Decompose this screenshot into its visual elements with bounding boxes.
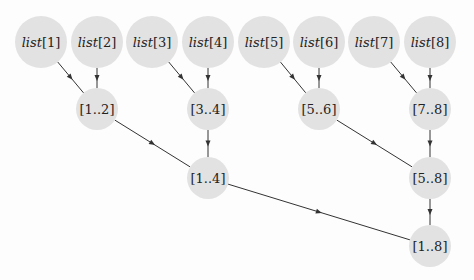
arrow-head-icon <box>206 75 211 81</box>
node-label: [1..4] <box>191 171 226 186</box>
node-label-italic: list <box>22 35 42 50</box>
arrow-head-icon <box>428 209 433 215</box>
node-label-index: [5..8] <box>413 171 448 186</box>
node-label-index: [7] <box>375 35 393 50</box>
node-label-italic: list <box>189 35 209 50</box>
node-l5: list[5] <box>238 16 290 68</box>
node-l8: list[8] <box>404 16 456 68</box>
node-m12: [1..2] <box>76 88 118 130</box>
node-label: list[7] <box>355 35 394 50</box>
arrow-head-icon <box>149 140 155 145</box>
node-m78: [7..8] <box>409 88 451 130</box>
arrow-head-icon <box>95 75 100 81</box>
node-label: [1..8] <box>413 239 448 254</box>
arrow-head-icon <box>317 75 322 81</box>
node-l2: list[2] <box>71 16 123 68</box>
node-label-italic: list <box>78 35 98 50</box>
node-label-index: [1..8] <box>413 239 448 254</box>
node-l3: list[3] <box>126 16 178 68</box>
node-label-index: [8] <box>431 35 449 50</box>
arrow-head-icon <box>428 141 433 147</box>
node-label-index: [5..6] <box>302 102 337 117</box>
node-label-index: [4] <box>209 35 227 50</box>
node-label-index: [2] <box>98 35 116 50</box>
node-label-index: [1] <box>42 35 60 50</box>
node-l1: list[1] <box>15 16 67 68</box>
node-label-index: [3..4] <box>191 102 226 117</box>
node-label-italic: list <box>355 35 375 50</box>
arrow-head-icon <box>206 141 211 147</box>
node-label: list[2] <box>78 35 117 50</box>
node-label: list[3] <box>133 35 172 50</box>
node-m18: [1..8] <box>409 225 451 267</box>
node-label-index: [1..2] <box>80 102 115 117</box>
node-label: list[1] <box>22 35 61 50</box>
node-m56: [5..6] <box>298 88 340 130</box>
node-label: list[8] <box>411 35 450 50</box>
node-m14: [1..4] <box>187 157 229 199</box>
node-l6: list[6] <box>293 16 345 68</box>
node-label-italic: list <box>245 35 265 50</box>
node-label-italic: list <box>411 35 431 50</box>
node-label: list[5] <box>245 35 284 50</box>
node-label: [1..2] <box>80 102 115 117</box>
node-label: list[4] <box>189 35 228 50</box>
node-label-italic: list <box>300 35 320 50</box>
node-label-index: [1..4] <box>191 171 226 186</box>
arrow-head-icon <box>371 140 377 145</box>
node-label: [5..8] <box>413 171 448 186</box>
merge-tree-diagram: list[1]list[2]list[3]list[4]list[5]list[… <box>0 0 474 280</box>
node-l4: list[4] <box>182 16 234 68</box>
node-label-index: [6] <box>320 35 338 50</box>
node-label: [5..6] <box>302 102 337 117</box>
node-label: [3..4] <box>191 102 226 117</box>
node-label: list[6] <box>300 35 339 50</box>
node-m34: [3..4] <box>187 88 229 130</box>
node-label-index: [7..8] <box>413 102 448 117</box>
node-m58: [5..8] <box>409 157 451 199</box>
node-label-index: [5] <box>265 35 283 50</box>
arrow-head-icon <box>428 75 433 81</box>
node-label: [7..8] <box>413 102 448 117</box>
node-label-index: [3] <box>153 35 171 50</box>
node-label-italic: list <box>133 35 153 50</box>
node-l7: list[7] <box>348 16 400 68</box>
arrow-head-icon <box>315 209 321 214</box>
